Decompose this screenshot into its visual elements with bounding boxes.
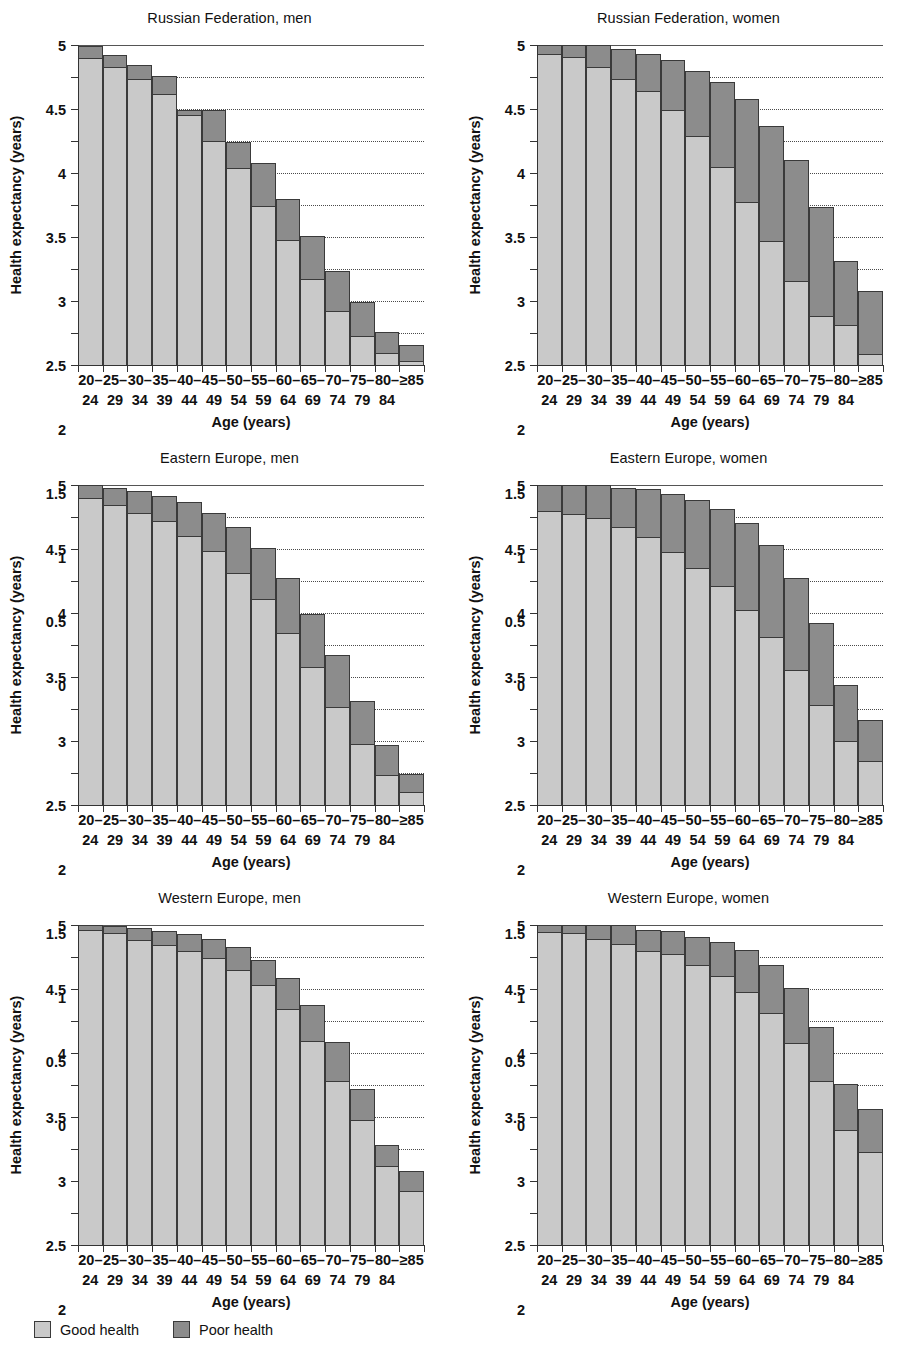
bar-segment-good-health: [226, 168, 251, 365]
x-axis-tick: [399, 365, 400, 372]
bar-75-79: [350, 485, 375, 805]
x-axis-label-upper: 55–: [251, 812, 276, 828]
x-axis-tick: [325, 805, 326, 812]
x-axis-tick: [661, 365, 662, 372]
bar-segment-poor-health: [636, 489, 661, 537]
x-axis-label-lower: 44: [636, 832, 661, 848]
x-axis-ticks: [78, 1245, 424, 1252]
y-axis-tick-label: 3: [517, 734, 525, 750]
x-axis-label-row-upper: 20–25–30–35–40–45–50–55–60–65–70–75–80–≥…: [537, 812, 883, 828]
x-axis-label-lower: 64: [276, 392, 301, 408]
bar-30-34: [586, 45, 611, 365]
x-axis-label-lower: 49: [661, 832, 686, 848]
x-axis-label-upper: 45–: [661, 812, 686, 828]
x-axis-tick: [809, 365, 810, 372]
y-axis-tick: 4: [71, 109, 78, 110]
y-axis-tick-label: 2.5: [505, 798, 525, 814]
x-axis-tick: [276, 805, 277, 812]
x-axis-label-lower: 39: [152, 832, 177, 848]
x-axis-tick: [685, 365, 686, 372]
x-axis-tick: [350, 365, 351, 372]
x-axis-label-upper: 25–: [103, 372, 128, 388]
x-axis-label-upper: 65–: [300, 1252, 325, 1268]
x-axis-tick: [636, 365, 637, 372]
bar-segment-good-health: [276, 1009, 301, 1245]
y-axis-tick: 3: [71, 173, 78, 174]
x-axis-label-upper: 65–: [300, 812, 325, 828]
x-axis-label-upper: 25–: [562, 372, 587, 388]
y-axis-tick-label: 5: [517, 918, 525, 934]
x-axis-label-upper: 20–: [537, 372, 562, 388]
y-axis-tick: 3.5: [530, 581, 537, 582]
bar-60-64: [276, 485, 301, 805]
bar-segment-poor-health: [784, 160, 809, 281]
x-axis-label-upper: 75–: [809, 812, 834, 828]
x-axis-tick: [661, 1245, 662, 1252]
x-axis-ticks: [537, 365, 883, 372]
bar-60-64: [735, 925, 760, 1245]
x-axis-tick-labels: 20–25–30–35–40–45–50–55–60–65–70–75–80–≥…: [537, 372, 883, 418]
bar-50-54: [226, 485, 251, 805]
x-axis-tick: [611, 1245, 612, 1252]
plot-area: 00.511.522.533.544.55: [537, 925, 883, 1245]
y-axis-tick: 2: [71, 677, 78, 678]
x-axis-tick: [710, 805, 711, 812]
x-axis-label-upper: ≥85: [399, 1252, 424, 1268]
x-axis-tick: [661, 805, 662, 812]
x-axis-label-upper: 55–: [710, 372, 735, 388]
y-axis-tick-label: 5: [517, 478, 525, 494]
bar-group: [78, 925, 424, 1245]
y-axis-tick: 2: [530, 677, 537, 678]
bar-35-39: [152, 925, 177, 1245]
bar-segment-good-health: [611, 79, 636, 365]
y-axis-tick-label: 4: [517, 166, 525, 182]
x-axis-label-lower: 64: [276, 832, 301, 848]
bar-segment-poor-health: [611, 49, 636, 78]
x-axis-label-upper: 65–: [300, 372, 325, 388]
y-axis-tick: 2.5: [530, 205, 537, 206]
bar-25-29: [562, 925, 587, 1245]
bar-25-29: [562, 45, 587, 365]
x-axis-label-upper: 70–: [784, 1252, 809, 1268]
x-axis-label-lower: 74: [325, 832, 350, 848]
y-axis-tick: 4.5: [530, 517, 537, 518]
bar-60-64: [276, 45, 301, 365]
y-axis-tick: 5: [530, 925, 537, 926]
x-axis-label-upper: 30–: [586, 1252, 611, 1268]
bar-segment-good-health: [325, 311, 350, 365]
y-axis-title: Health expectancy (years): [467, 485, 489, 805]
bar-segment-good-health: [251, 599, 276, 805]
y-axis-tick: 3: [71, 1053, 78, 1054]
y-axis-tick-label: 2.5: [46, 798, 66, 814]
x-axis-label-upper: 20–: [537, 812, 562, 828]
x-axis-label-upper: 40–: [177, 1252, 202, 1268]
y-axis-tick-label: 2: [517, 422, 525, 438]
x-axis-label-row-upper: 20–25–30–35–40–45–50–55–60–65–70–75–80–≥…: [78, 372, 424, 388]
bar-segment-good-health: [784, 1043, 809, 1245]
x-axis-label-lower: 54: [226, 1272, 251, 1288]
x-axis-tick: [735, 805, 736, 812]
y-axis-tick-label: 3: [58, 1174, 66, 1190]
bar-segment-poor-health: [177, 502, 202, 536]
bar-segment-good-health: [809, 316, 834, 365]
x-axis-title: Age (years): [78, 414, 424, 430]
x-axis-label-lower: 69: [759, 832, 784, 848]
x-axis-tick: [636, 1245, 637, 1252]
x-axis-ticks: [78, 365, 424, 372]
bar-segment-poor-health: [710, 942, 735, 977]
x-axis-tick: [375, 805, 376, 812]
x-axis-label-upper: 65–: [759, 812, 784, 828]
bar-55-59: [251, 925, 276, 1245]
bar-group: [537, 925, 883, 1245]
x-axis-label-upper: 55–: [710, 812, 735, 828]
bar-segment-good-health: [562, 933, 587, 1245]
y-axis-tick-label: 4: [58, 166, 66, 182]
bar-80-84: [375, 45, 400, 365]
bar-segment-good-health: [661, 954, 686, 1245]
y-axis-tick: 3.5: [71, 581, 78, 582]
x-axis-label-lower: 59: [710, 832, 735, 848]
x-axis-label-lower: 34: [127, 392, 152, 408]
x-axis-label-lower: 34: [586, 832, 611, 848]
y-axis-line: [537, 45, 538, 365]
bar-segment-good-health: [710, 976, 735, 1245]
